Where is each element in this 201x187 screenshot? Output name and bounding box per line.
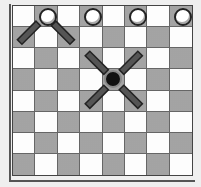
board-square[interactable] [125, 112, 147, 133]
board-square[interactable] [170, 69, 192, 90]
board-square[interactable] [58, 91, 80, 112]
board-square[interactable] [35, 6, 57, 27]
board-square[interactable] [170, 112, 192, 133]
board-square[interactable] [147, 69, 169, 90]
board-square[interactable] [125, 91, 147, 112]
game-board[interactable] [12, 5, 193, 176]
board-square[interactable] [170, 133, 192, 154]
board-square[interactable] [80, 91, 102, 112]
board-square[interactable] [170, 27, 192, 48]
board-square[interactable] [103, 6, 125, 27]
board-square[interactable] [13, 154, 35, 175]
board-square[interactable] [13, 6, 35, 27]
board-square[interactable] [147, 133, 169, 154]
board-square[interactable] [58, 69, 80, 90]
board-square[interactable] [125, 133, 147, 154]
board-square[interactable] [170, 6, 192, 27]
board-square[interactable] [125, 69, 147, 90]
white-piece-icon[interactable] [174, 8, 192, 26]
board-square[interactable] [35, 27, 57, 48]
board-square[interactable] [125, 48, 147, 69]
board-square[interactable] [13, 91, 35, 112]
white-piece-icon[interactable] [84, 8, 102, 26]
board-square[interactable] [58, 112, 80, 133]
board-square[interactable] [13, 48, 35, 69]
board-square[interactable] [35, 91, 57, 112]
board-square[interactable] [103, 154, 125, 175]
board-square[interactable] [80, 112, 102, 133]
board-square[interactable] [13, 133, 35, 154]
board-square[interactable] [58, 133, 80, 154]
board-square[interactable] [80, 154, 102, 175]
board-square[interactable] [35, 48, 57, 69]
board-square[interactable] [13, 112, 35, 133]
board-square[interactable] [103, 27, 125, 48]
board-square[interactable] [58, 154, 80, 175]
board-square[interactable] [147, 27, 169, 48]
board-square[interactable] [103, 133, 125, 154]
board-square[interactable] [80, 6, 102, 27]
black-piece-icon[interactable] [104, 70, 122, 88]
board-square[interactable] [80, 48, 102, 69]
board-square[interactable] [58, 48, 80, 69]
board-square[interactable] [58, 27, 80, 48]
board-square[interactable] [13, 69, 35, 90]
white-piece-icon[interactable] [129, 8, 147, 26]
board-square[interactable] [147, 48, 169, 69]
board-square[interactable] [147, 154, 169, 175]
board-square[interactable] [103, 48, 125, 69]
board-square[interactable] [35, 69, 57, 90]
board-square[interactable] [80, 69, 102, 90]
board-square[interactable] [170, 91, 192, 112]
board-square[interactable] [147, 91, 169, 112]
board-square[interactable] [35, 154, 57, 175]
board-square[interactable] [170, 48, 192, 69]
white-piece-icon[interactable] [39, 8, 57, 26]
board-square[interactable] [103, 112, 125, 133]
board-square[interactable] [58, 6, 80, 27]
board-square[interactable] [35, 133, 57, 154]
board-square[interactable] [125, 154, 147, 175]
board-square[interactable] [125, 6, 147, 27]
board-square[interactable] [170, 154, 192, 175]
board-square[interactable] [147, 6, 169, 27]
board-square[interactable] [125, 27, 147, 48]
board-square[interactable] [13, 27, 35, 48]
board-square[interactable] [35, 112, 57, 133]
board-square[interactable] [80, 133, 102, 154]
board-square[interactable] [103, 69, 125, 90]
board-square[interactable] [103, 91, 125, 112]
board-square[interactable] [80, 27, 102, 48]
board-square[interactable] [147, 112, 169, 133]
